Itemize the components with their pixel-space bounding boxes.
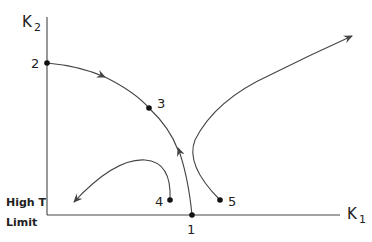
trajectory-5: [193, 36, 352, 200]
point-5-label: 5: [228, 194, 236, 209]
phase-diagram: K 2 K 1 High T Limit 2 3 1 4 5: [0, 0, 372, 242]
high-t-label: High T: [6, 196, 47, 209]
trajectory-1-up: [178, 148, 192, 215]
x-axis-label: K: [347, 205, 358, 223]
point-3: [146, 105, 152, 111]
trajectory-2-3: [105, 77, 178, 150]
point-3-label: 3: [157, 96, 165, 111]
point-4: [167, 197, 173, 203]
x-axis-subscript: 1: [359, 213, 366, 226]
point-5: [217, 197, 223, 203]
trajectory-2-arrow-segment: [47, 63, 105, 77]
y-axis-subscript: 2: [34, 21, 41, 34]
point-2-label: 2: [31, 56, 39, 71]
point-4-label: 4: [155, 194, 163, 209]
point-1: [189, 212, 195, 218]
point-1-label: 1: [187, 222, 195, 237]
limit-label: Limit: [6, 216, 37, 229]
point-2: [44, 60, 50, 66]
y-axis-label: K: [22, 13, 33, 31]
